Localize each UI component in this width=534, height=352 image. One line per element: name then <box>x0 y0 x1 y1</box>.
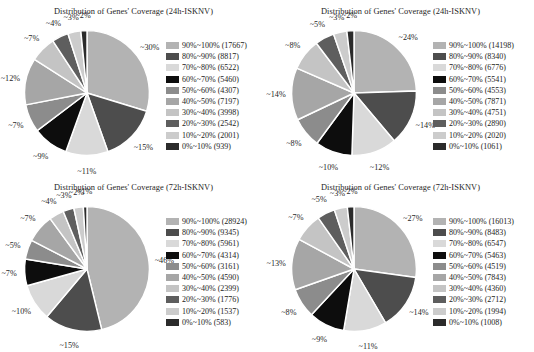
panel-title: Distribution of Genes' Coverage (24h-ISK… <box>0 7 267 16</box>
legend-item[interactable]: 90%~100% (14198) <box>433 40 534 51</box>
legend-item[interactable]: 60%~70% (4314) <box>166 250 270 261</box>
legend-item[interactable]: 90%~100% (16013) <box>433 216 534 227</box>
legend-swatch-icon <box>433 252 446 259</box>
legend-label: 90%~100% (16013) <box>449 216 514 227</box>
legend-item[interactable]: 10%~20% (2001) <box>166 130 270 141</box>
legend-swatch-icon <box>433 263 446 270</box>
legend-item[interactable]: 60%~70% (5541) <box>433 74 534 85</box>
legend-swatch-icon <box>433 229 446 236</box>
legend-swatch-icon <box>166 252 179 259</box>
legend-item[interactable]: 70%~80% (6522) <box>166 62 270 73</box>
legend-label: 30%~40% (3998) <box>182 107 239 118</box>
legend-item[interactable]: 60%~70% (5463) <box>433 250 534 261</box>
legend-item[interactable]: 30%~40% (4751) <box>433 107 534 118</box>
legend-item[interactable]: 50%~60% (4307) <box>166 85 270 96</box>
legend-swatch-icon <box>433 53 446 60</box>
legend-item[interactable]: 10%~20% (1994) <box>433 306 534 317</box>
legend-label: 70%~80% (5961) <box>182 238 239 249</box>
pie-slice-label: ~5% <box>5 240 20 249</box>
legend-top-left: 90%~100% (17667)80%~90% (8817)70%~80% (6… <box>166 40 270 152</box>
legend-item[interactable]: 80%~90% (8340) <box>433 51 534 62</box>
legend-label: 50%~60% (4307) <box>182 85 239 96</box>
pie-svg <box>22 204 152 334</box>
legend-item[interactable]: 20%~30% (1776) <box>166 294 270 305</box>
legend-swatch-icon <box>433 120 446 127</box>
legend-item[interactable]: 50%~60% (3161) <box>166 261 270 272</box>
legend-swatch-icon <box>433 98 446 105</box>
legend-item[interactable]: 90%~100% (17667) <box>166 40 270 51</box>
legend-swatch-icon <box>166 319 179 326</box>
legend-label: 30%~40% (4751) <box>449 107 506 118</box>
legend-swatch-icon <box>433 240 446 247</box>
legend-label: 90%~100% (28924) <box>182 216 247 227</box>
legend-label: 0%~10% (1061) <box>449 141 502 152</box>
legend-swatch-icon <box>433 64 446 71</box>
legend-swatch-icon <box>433 308 446 315</box>
panel-title: Distribution of Genes' Coverage (24h-ISK… <box>267 7 534 16</box>
legend-bottom-right: 90%~100% (16013)80%~90% (8483)70%~80% (6… <box>433 216 534 328</box>
legend-item[interactable]: 50%~60% (4553) <box>433 85 534 96</box>
legend-label: 0%~10% (939) <box>182 141 231 152</box>
legend-label: 10%~20% (1537) <box>182 306 239 317</box>
legend-label: 80%~90% (8340) <box>449 51 506 62</box>
legend-swatch-icon <box>166 76 179 83</box>
legend-item[interactable]: 10%~20% (2020) <box>433 130 534 141</box>
legend-swatch-icon <box>166 274 179 281</box>
legend-item[interactable]: 30%~40% (3998) <box>166 107 270 118</box>
pie-slice-label: ~13% <box>266 258 285 267</box>
legend-label: 60%~70% (5460) <box>182 74 239 85</box>
pie-slice-label: ~15% <box>59 340 78 349</box>
legend-item[interactable]: 20%~30% (2712) <box>433 294 534 305</box>
legend-label: 20%~30% (2542) <box>182 118 239 129</box>
legend-item[interactable]: 20%~30% (2890) <box>433 118 534 129</box>
legend-label: 20%~30% (1776) <box>182 294 239 305</box>
legend-label: 20%~30% (2890) <box>449 118 506 129</box>
legend-item[interactable]: 90%~100% (28924) <box>166 216 270 227</box>
legend-label: 40%~50% (7871) <box>449 96 506 107</box>
pie-slice-label: ~5% <box>311 195 326 204</box>
legend-item[interactable]: 40%~50% (4590) <box>166 272 270 283</box>
legend-label: 10%~20% (2020) <box>449 130 506 141</box>
legend-item[interactable]: 0%~10% (1008) <box>433 317 534 328</box>
legend-swatch-icon <box>166 53 179 60</box>
legend-item[interactable]: 80%~90% (8483) <box>433 227 534 238</box>
legend-item[interactable]: 0%~10% (1061) <box>433 141 534 152</box>
legend-swatch-icon <box>166 42 179 49</box>
legend-label: 10%~20% (2001) <box>182 130 239 141</box>
legend-item[interactable]: 40%~50% (7197) <box>166 96 270 107</box>
legend-swatch-icon <box>433 132 446 139</box>
legend-item[interactable]: 70%~80% (5961) <box>166 238 270 249</box>
legend-label: 80%~90% (8817) <box>182 51 239 62</box>
legend-item[interactable]: 30%~40% (4360) <box>433 283 534 294</box>
legend-swatch-icon <box>433 109 446 116</box>
legend-item[interactable]: 70%~80% (6776) <box>433 62 534 73</box>
legend-swatch-icon <box>433 319 446 326</box>
legend-item[interactable]: 50%~60% (4519) <box>433 261 534 272</box>
legend-item[interactable]: 30%~40% (2399) <box>166 283 270 294</box>
legend-item[interactable]: 40%~50% (7871) <box>433 96 534 107</box>
pie-panel-bottom-left: Distribution of Genes' Coverage (72h-ISK… <box>0 176 267 352</box>
legend-item[interactable]: 10%~20% (1537) <box>166 306 270 317</box>
legend-item[interactable]: 70%~80% (6547) <box>433 238 534 249</box>
pie-slice-label: ~11% <box>359 341 378 350</box>
legend-item[interactable]: 20%~30% (2542) <box>166 118 270 129</box>
panel-title: Distribution of Genes' Coverage (72h-ISK… <box>267 183 534 192</box>
legend-label: 60%~70% (5541) <box>449 74 506 85</box>
legend-item[interactable]: 80%~90% (9345) <box>166 227 270 238</box>
pie-panel-top-right: Distribution of Genes' Coverage (24h-ISK… <box>267 0 534 176</box>
pie-slice[interactable] <box>354 207 416 278</box>
legend-top-right: 90%~100% (14198)80%~90% (8340)70%~80% (6… <box>433 40 534 152</box>
figure-grid: Distribution of Genes' Coverage (24h-ISK… <box>0 0 534 352</box>
legend-item[interactable]: 60%~70% (5460) <box>166 74 270 85</box>
legend-label: 90%~100% (14198) <box>449 40 514 51</box>
legend-label: 0%~10% (1008) <box>449 317 502 328</box>
legend-item[interactable]: 0%~10% (939) <box>166 141 270 152</box>
legend-swatch-icon <box>166 285 179 292</box>
legend-item[interactable]: 80%~90% (8817) <box>166 51 270 62</box>
legend-item[interactable]: 0%~10% (583) <box>166 317 270 328</box>
pie-slice-label: ~10% <box>319 162 338 171</box>
pie-slice[interactable] <box>354 31 416 93</box>
legend-item[interactable]: 40%~50% (7843) <box>433 272 534 283</box>
legend-label: 50%~60% (4553) <box>449 85 506 96</box>
legend-label: 50%~60% (4519) <box>449 261 506 272</box>
